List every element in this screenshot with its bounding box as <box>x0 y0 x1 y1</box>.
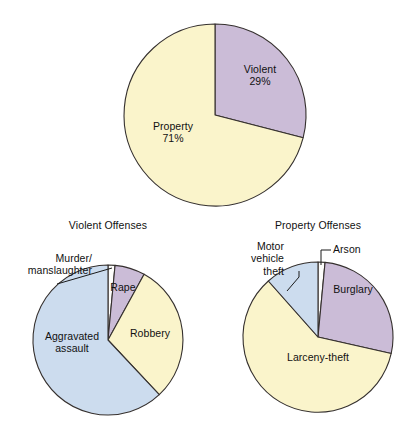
title-property-offenses: Property Offenses <box>248 219 388 231</box>
label-burglary: Burglary <box>322 283 384 295</box>
label-arson: Arson <box>333 243 383 255</box>
label-aggravated-assault: Aggravatedassault <box>30 330 114 355</box>
pie-charts-canvas <box>0 0 411 435</box>
label-property: Property71% <box>137 120 209 145</box>
label-motor-vehicle-theft: Motorvehicletheft <box>222 240 284 277</box>
top-pie-chart <box>124 24 306 206</box>
label-larceny-theft: Larceny-theft <box>272 351 364 363</box>
label-rape: Rape <box>102 281 144 293</box>
label-violent: Violent29% <box>228 63 292 88</box>
label-murder-manslaughter: Murder/manslaughter <box>0 252 92 277</box>
title-violent-offenses: Violent Offenses <box>38 219 178 231</box>
label-robbery: Robbery <box>120 327 180 339</box>
crime-offenses-figure: Violent29% Property71% Violent Offenses … <box>0 0 411 435</box>
